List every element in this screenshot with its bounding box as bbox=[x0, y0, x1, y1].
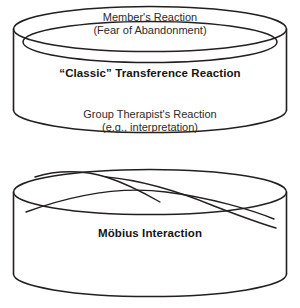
figure-root: Member's Reaction (Fear of Abandonment) … bbox=[0, 0, 300, 308]
label-group-therapist-line2: (e.g., interpretation) bbox=[0, 121, 300, 134]
label-mobius-interaction: Möbius Interaction bbox=[0, 226, 300, 240]
label-members-reaction: Member's Reaction (Fear of Abandonment) bbox=[0, 11, 300, 38]
diagram-canvas bbox=[0, 0, 300, 308]
label-group-therapist-line1: Group Therapist's Reaction bbox=[0, 108, 300, 121]
label-classic-transference-reaction: “Classic” Transference Reaction bbox=[0, 66, 300, 80]
label-members-reaction-line2: (Fear of Abandonment) bbox=[0, 24, 300, 37]
mobius-outer-top-rim bbox=[14, 170, 287, 215]
label-group-therapist-reaction: Group Therapist's Reaction (e.g., interp… bbox=[0, 108, 300, 135]
label-members-reaction-line1: Member's Reaction bbox=[0, 11, 300, 24]
